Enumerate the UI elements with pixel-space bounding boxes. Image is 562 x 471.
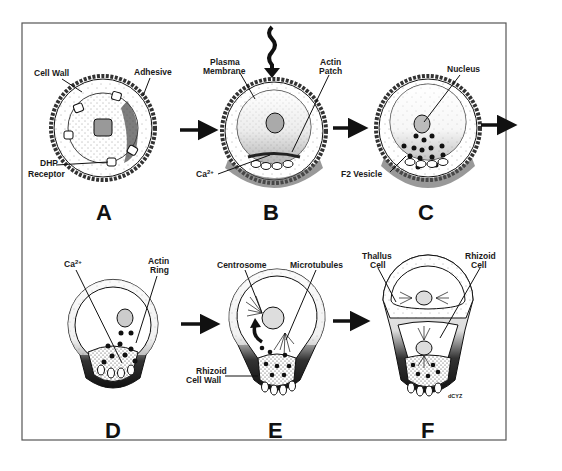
label-f2-vesicle: F2 Vesicle [341, 169, 382, 179]
figure-canvas: Cell Wall Adhesive DHP Receptor A [0, 0, 562, 471]
panel-letter-d: D [105, 418, 121, 443]
artist-signature: dCYZ [448, 393, 463, 399]
panel-letter-e: E [268, 418, 283, 443]
panel-letter-c: C [418, 200, 434, 225]
label-calcium: Ca2+ [196, 169, 214, 179]
thallus-nucleus [416, 291, 432, 305]
label-rhizoid-wall-line2: Cell Wall [186, 375, 221, 385]
nucleus [266, 113, 284, 133]
panel-a: Cell Wall Adhesive DHP Receptor A [28, 67, 172, 225]
label-adhesive: Adhesive [134, 67, 172, 77]
label-plasma-line2: Membrane [203, 66, 246, 76]
label-cell-wall: Cell Wall [34, 68, 69, 78]
label-actin-line2: Ring [150, 265, 169, 275]
nucleus [262, 307, 284, 329]
panel-f: Thallus Cell Rhizoid Cell dCYZ F [362, 251, 496, 443]
panel-letter-f: F [421, 418, 434, 443]
zygote-b [222, 79, 326, 188]
label-dhp-line2: Receptor [28, 169, 66, 179]
label-thallus-line2: Cell [370, 260, 386, 270]
panel-d: Ca2+ Actin Ring D [64, 256, 169, 443]
label-centrosome: Centrosome [217, 260, 267, 270]
panel-letter-a: A [96, 200, 112, 225]
panel-c: Nucleus F2 Vesicle C [341, 64, 480, 225]
label-rhizoid-line2: Cell [471, 260, 487, 270]
label-microtubules: Microtubules [290, 260, 343, 270]
panel-letter-b: B [263, 200, 279, 225]
zygote-c [376, 76, 480, 188]
panel-b: Plasma Membrane Actin Patch Ca2+ B [196, 27, 342, 225]
zygote-d [68, 279, 158, 388]
rhizoid-nucleus [416, 341, 432, 355]
light-stimulus-icon [269, 27, 275, 70]
panel-e: Centrosome Microtubules Rhizoid Cell Wal… [186, 260, 343, 443]
label-dhp-line1: DHP [40, 158, 58, 168]
label-actin-line2: Patch [319, 66, 342, 76]
label-nucleus: Nucleus [447, 64, 480, 74]
label-calcium: Ca2+ [64, 259, 82, 269]
zygote-f [383, 255, 473, 396]
nucleus [117, 309, 133, 327]
nucleus [94, 119, 112, 136]
